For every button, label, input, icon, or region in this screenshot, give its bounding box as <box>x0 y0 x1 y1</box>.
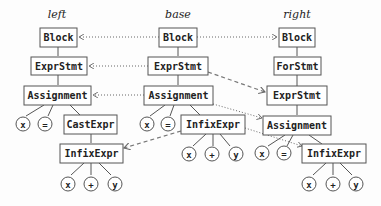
right-infixexpr-label: InfixExpr <box>307 148 361 159</box>
left-tree: Block ExprStmt Assignment x = CastExpr I… <box>16 28 123 191</box>
base-infix-y-label: y <box>233 150 239 160</box>
right-infix-x-label: x <box>306 180 312 190</box>
left-block-label: Block <box>43 32 73 43</box>
left-infix-y-label: y <box>112 180 118 190</box>
right-infix-plus-label: + <box>330 180 336 190</box>
right-block-label: Block <box>282 32 312 43</box>
left-exprstmt-label: ExprStmt <box>35 61 83 72</box>
base-tree: Block ExprStmt Assignment x = InfixExpr … <box>140 28 245 161</box>
right-tree: Block ForStmt ExprStmt Assignment x = In… <box>255 28 366 191</box>
label-left: left <box>48 8 67 21</box>
right-x-label: x <box>259 149 265 159</box>
label-right: right <box>283 8 311 21</box>
map-exprstmt-right <box>208 72 265 92</box>
base-infix-x-label: x <box>186 150 192 160</box>
left-castexpr-label: CastExpr <box>66 119 114 130</box>
left-x-label: x <box>20 120 26 130</box>
left-infixexpr-label: InfixExpr <box>64 148 118 159</box>
right-infix-y-label: y <box>353 180 359 190</box>
left-infix-x-label: x <box>65 180 71 190</box>
label-base: base <box>165 8 191 21</box>
map-infixexpr-left <box>124 131 181 148</box>
left-infix-plus-label: + <box>88 180 94 190</box>
base-infix-plus-label: + <box>209 150 215 160</box>
base-eq-label: = <box>165 120 171 130</box>
base-x-label: x <box>144 120 150 130</box>
base-exprstmt-label: ExprStmt <box>154 61 202 72</box>
base-block-label: Block <box>163 32 193 43</box>
right-forstmt-label: ForStmt <box>276 61 318 72</box>
left-assignment-label: Assignment <box>27 90 87 101</box>
base-infixexpr-label: InfixExpr <box>186 119 240 130</box>
right-exprstmt-label: ExprStmt <box>273 90 321 101</box>
base-assignment-label: Assignment <box>148 90 208 101</box>
right-assignment-label: Assignment <box>267 120 327 131</box>
ast-diff-diagram: left base right <box>0 0 381 206</box>
left-eq-label: = <box>42 120 48 130</box>
right-eq-label: = <box>281 149 287 159</box>
